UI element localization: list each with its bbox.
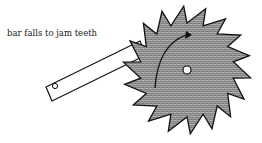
ratchet-diagram — [0, 0, 262, 143]
pawl-bar — [46, 41, 146, 101]
axle-hole — [183, 66, 191, 74]
